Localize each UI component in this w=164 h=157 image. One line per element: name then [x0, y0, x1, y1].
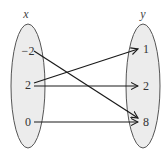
mapping-diagram: x y −2 2 0 1 2 8 [0, 0, 164, 157]
domain-element: −2 [22, 44, 35, 58]
domain-label: x [22, 7, 29, 21]
range-element: 1 [143, 42, 149, 56]
range-label: y [139, 7, 146, 21]
range-element: 2 [143, 79, 149, 93]
domain-element: 0 [25, 115, 31, 129]
domain-element: 2 [25, 78, 31, 92]
mapping-arrow-neg2-to-8 [34, 51, 138, 118]
mapping-arrow-2-to-1 [34, 49, 138, 83]
range-element: 8 [143, 115, 149, 129]
